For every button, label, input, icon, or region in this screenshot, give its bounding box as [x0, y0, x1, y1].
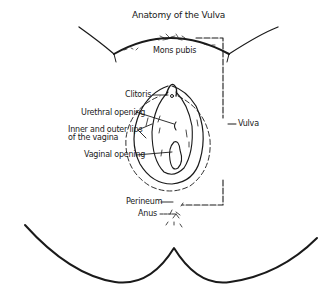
- label-vaginal-opening: Vaginal opening: [84, 151, 145, 159]
- label-inner-outer-lips: Inner and outer lips of the vagina: [68, 126, 142, 143]
- label-urethral-opening: Urethral opening: [81, 109, 145, 117]
- vulva-bracket: [182, 38, 223, 205]
- label-clitoris: Clitoris: [125, 91, 151, 99]
- anus-marks: [166, 203, 183, 227]
- right-thigh-upper-line: [229, 27, 278, 54]
- label-anus: Anus: [138, 210, 157, 218]
- diagram-title: Anatomy of the Vulva: [132, 11, 225, 20]
- label-mons-pubis: Mons pubis: [153, 47, 196, 55]
- vulva-anatomy-diagram: Anatomy of the Vulva Mons pubis Clitoris…: [0, 0, 336, 306]
- label-vulva: Vulva: [238, 120, 259, 128]
- buttocks-contour: [25, 225, 317, 283]
- left-thigh-upper-line: [79, 27, 114, 54]
- vaginal-opening-outline: [170, 142, 182, 169]
- urethral-opening: [175, 122, 177, 130]
- label-perineum: Perineum: [126, 198, 162, 206]
